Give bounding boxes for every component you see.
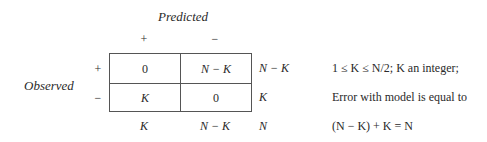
column-total-minus: N − K	[200, 120, 230, 132]
observed-minus-sign: −	[95, 92, 102, 104]
row-total-plus: N − K	[259, 62, 289, 74]
cell-obs-plus-pred-plus: 0	[110, 63, 180, 75]
note-error-equation: (N − K) + K = N	[332, 120, 413, 132]
note-constraint: 1 ≤ K ≤ N/2; K an integer;	[332, 62, 459, 74]
observed-plus-sign: +	[95, 63, 102, 75]
note-error-label: Error with model is equal to	[332, 91, 467, 103]
column-total-plus: K	[140, 120, 148, 132]
cell-obs-plus-pred-minus: N − K	[181, 63, 251, 75]
row-total-minus: K	[259, 91, 267, 103]
contingency-table: 0 N − K K 0	[109, 53, 252, 112]
predicted-minus-sign: −	[212, 33, 219, 45]
table-divider-horizontal	[110, 83, 251, 84]
observed-header: Observed	[24, 79, 74, 92]
cell-obs-minus-pred-minus: 0	[181, 92, 251, 104]
cell-obs-minus-pred-plus: K	[110, 92, 180, 104]
predicted-plus-sign: +	[141, 33, 148, 45]
predicted-header: Predicted	[158, 10, 208, 23]
grand-total: N	[259, 120, 267, 132]
